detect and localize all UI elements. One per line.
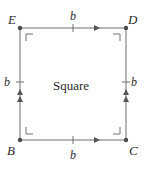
vertex-B: [18, 138, 22, 142]
label-side-top: b: [70, 9, 76, 23]
right-angle-marker-E: [26, 34, 33, 41]
right-angle-marker-B: [26, 127, 33, 134]
vertex-E: [18, 26, 22, 30]
right-angle-marker-D: [113, 34, 120, 41]
label-side-right: b: [131, 75, 137, 89]
label-side-bottom: b: [70, 148, 76, 162]
arrow-icon-top: [94, 25, 100, 31]
double-arrow-icon-right-2: [123, 96, 129, 102]
square-diagram: E D B C b b b b Square: [0, 0, 146, 169]
double-arrow-icon-left-2: [17, 96, 23, 102]
label-B: B: [7, 143, 15, 158]
vertex-C: [124, 138, 128, 142]
double-arrow-icon-left-1: [17, 89, 23, 95]
arrow-icon-bottom: [94, 137, 100, 143]
label-side-left: b: [4, 75, 10, 89]
double-arrow-icon-right-1: [123, 89, 129, 95]
center-label: Square: [53, 78, 89, 93]
label-C: C: [129, 143, 138, 158]
label-E: E: [7, 12, 16, 27]
right-angle-marker-C: [113, 127, 120, 134]
label-D: D: [127, 12, 138, 27]
